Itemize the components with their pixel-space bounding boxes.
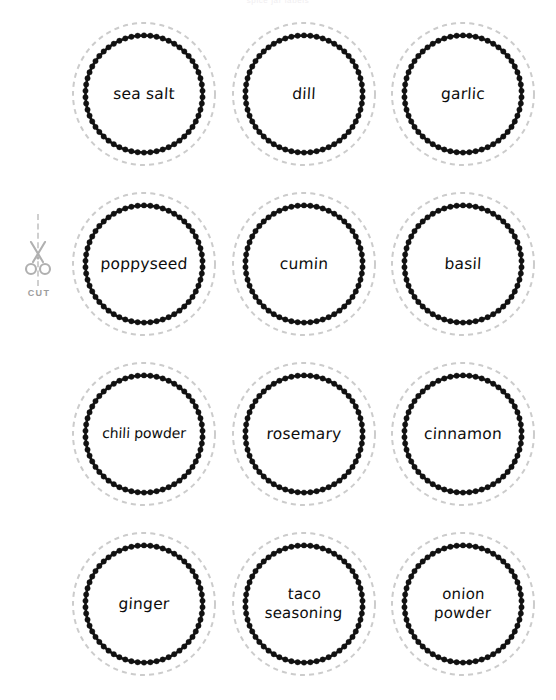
spice-label-text: cumin	[239, 202, 369, 326]
label-grid: sea saltdillgarlicpoppyseedcuminbasilchi…	[0, 0, 556, 700]
spice-label-text: rosemary	[239, 372, 369, 496]
spice-label-taco-seasoning[interactable]: taco seasoning	[231, 531, 377, 677]
spice-label-cinnamon[interactable]: cinnamon	[390, 361, 536, 507]
spice-label-text: chili powder	[79, 372, 209, 496]
spice-label-cumin[interactable]: cumin	[231, 191, 377, 337]
spice-label-text: cinnamon	[398, 372, 528, 496]
spice-label-garlic[interactable]: garlic	[390, 21, 536, 167]
spice-label-chili-powder[interactable]: chili powder	[71, 361, 217, 507]
spice-label-text: onion powder	[398, 542, 528, 666]
spice-label-text: basil	[398, 202, 528, 326]
spice-label-text: sea salt	[79, 32, 209, 156]
spice-label-rosemary[interactable]: rosemary	[231, 361, 377, 507]
label-sheet: spice jar labels CUT sea saltdillgarlicp…	[0, 0, 556, 700]
spice-label-onion-powder[interactable]: onion powder	[390, 531, 536, 677]
spice-label-sea-salt[interactable]: sea salt	[71, 21, 217, 167]
spice-label-poppyseed[interactable]: poppyseed	[71, 191, 217, 337]
spice-label-text: dill	[239, 32, 369, 156]
spice-label-basil[interactable]: basil	[390, 191, 536, 337]
spice-label-text: ginger	[79, 542, 209, 666]
spice-label-text: garlic	[398, 32, 528, 156]
spice-label-ginger[interactable]: ginger	[71, 531, 217, 677]
spice-label-text: taco seasoning	[239, 542, 369, 666]
spice-label-text: poppyseed	[79, 202, 209, 326]
spice-label-dill[interactable]: dill	[231, 21, 377, 167]
